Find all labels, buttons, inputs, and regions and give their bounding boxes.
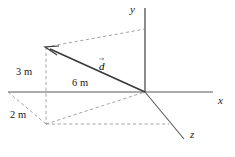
diagram-canvas: [0, 0, 235, 157]
measurement-label-2m: 2 m: [10, 110, 26, 121]
dash-bottom-corner-to-origin: [46, 92, 145, 124]
axis-label-z: z: [190, 129, 194, 140]
vector-d-group: [45, 46, 145, 92]
vector-label-d: d: [99, 60, 105, 72]
dash-top-to-y-axis: [46, 29, 145, 47]
measurement-label-6m: 6 m: [72, 78, 88, 89]
axis-lines: [8, 8, 213, 139]
axis-label-y: y: [130, 4, 135, 15]
axis-label-x: x: [218, 95, 223, 106]
vector-label-group: d: [99, 56, 105, 74]
vector-overarrow-icon: [99, 56, 105, 61]
measurement-label-3m: 3 m: [16, 67, 32, 78]
z-axis-line: [145, 92, 184, 139]
vector-d-shaft: [50, 49, 145, 92]
vector-diagram-figure: x y z 3 m 6 m 2 m d: [0, 0, 235, 157]
